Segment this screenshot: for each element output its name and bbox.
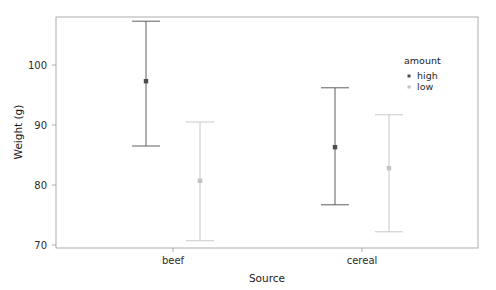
errorbar-high-cereal [321,88,349,205]
legend-label-low: low [417,81,433,92]
data-point-high-cereal [333,145,337,149]
y-tick-label-70: 70 [34,240,47,251]
x-tick-label-cereal: cereal [347,255,378,266]
data-points-layer [132,21,403,241]
legend-marker-low [408,86,411,89]
x-axis-ticks [173,248,362,252]
data-point-high-beef [144,79,148,83]
data-point-low-cereal [387,166,391,170]
legend-label-high: high [417,70,438,81]
y-tick-label-100: 100 [28,60,47,71]
data-point-low-beef [198,179,202,183]
y-axis-title: Weight (g) [12,105,24,160]
chart-container: 70 80 90 100 Weight (g) beef cereal Sour… [0,0,496,290]
plot-frame [56,17,478,248]
legend-marker-high [408,75,411,78]
y-tick-label-90: 90 [34,120,47,131]
errorbar-low-cereal [375,115,403,232]
y-axis-ticks [52,65,56,245]
x-tick-label-beef: beef [162,255,185,266]
legend-title: amount [404,55,441,66]
errorbar-low-beef [186,122,214,241]
legend: amount high low [404,55,441,92]
scatter-plot-svg: 70 80 90 100 Weight (g) beef cereal Sour… [0,0,496,290]
x-axis-title: Source [249,272,285,284]
errorbar-high-beef [132,21,160,146]
y-tick-label-80: 80 [34,180,47,191]
